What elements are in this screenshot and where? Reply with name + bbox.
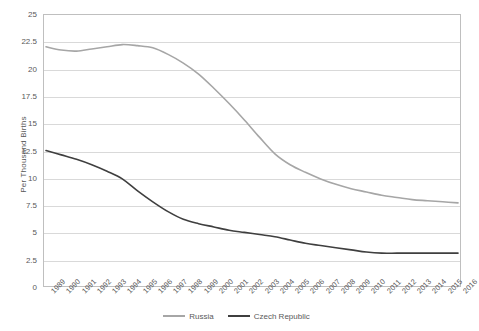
- y-tick-label: 5: [33, 228, 37, 237]
- y-tick-label: 22.5: [21, 37, 37, 46]
- y-tick-label: 10: [28, 173, 37, 182]
- legend: RussiaCzech Republic: [0, 309, 473, 323]
- legend-swatch-icon: [163, 315, 185, 317]
- legend-swatch-icon: [228, 315, 250, 317]
- x-tick-label: 2016: [461, 277, 479, 295]
- y-tick-label: 7.5: [26, 201, 37, 210]
- y-axis-tick-labels: 02.557.51012.51517.52022.525: [0, 14, 41, 287]
- series-line-czech-republic: [46, 151, 458, 254]
- series-line-russia: [46, 45, 458, 203]
- y-tick-label: 17.5: [21, 91, 37, 100]
- legend-label: Czech Republic: [254, 312, 310, 321]
- legend-label: Russia: [189, 312, 213, 321]
- y-tick-label: 25: [28, 10, 37, 19]
- y-tick-label: 2.5: [26, 255, 37, 264]
- y-tick-label: 12.5: [21, 146, 37, 155]
- y-tick-label: 0: [33, 283, 37, 292]
- y-tick-label: 20: [28, 64, 37, 73]
- legend-item[interactable]: Czech Republic: [228, 312, 310, 321]
- series-layer: [43, 14, 461, 287]
- legend-item[interactable]: Russia: [163, 312, 213, 321]
- y-tick-label: 15: [28, 119, 37, 128]
